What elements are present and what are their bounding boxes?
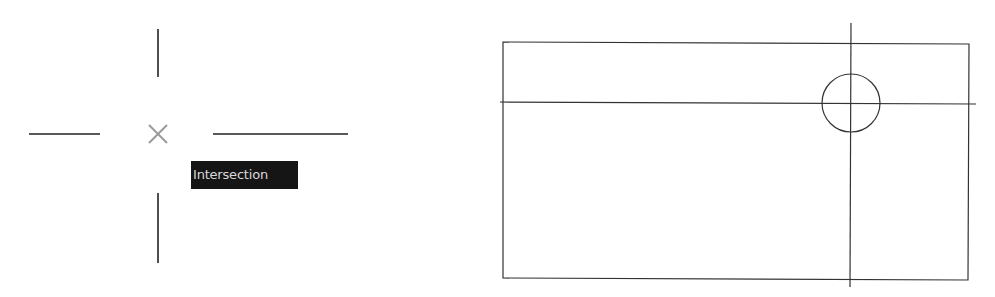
osnap-tooltip: Intersection (191, 161, 298, 189)
vertical-construction-line (850, 23, 851, 287)
intersection-snap-marker-icon (149, 125, 167, 143)
horizontal-construction-line (500, 102, 976, 104)
rectangle-outline (503, 42, 969, 280)
drawing-canvas (0, 0, 995, 297)
cad-drawing (500, 23, 976, 287)
crosshair-cursor (29, 29, 348, 263)
